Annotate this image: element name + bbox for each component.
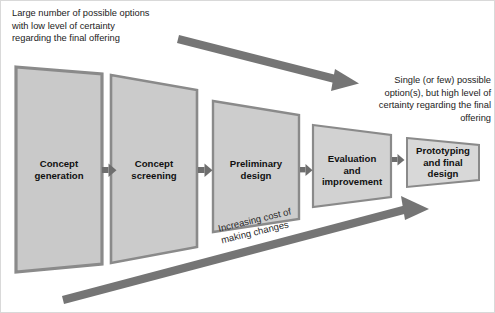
stage-shape-concept-generation [16, 67, 102, 272]
diagram-canvas: Large number of possible options with lo… [0, 0, 495, 313]
flow-arrow-3-to-4 [300, 164, 313, 176]
note-single-option: Single (or few) possible option(s), but … [331, 74, 491, 124]
stage-shape-evaluation-improvement [313, 125, 391, 207]
note-large-options: Large number of possible options with lo… [12, 7, 149, 45]
flow-arrow-2-to-3 [198, 164, 213, 178]
stage-shape-prototyping-final [407, 138, 479, 187]
flow-arrow-4-to-5 [392, 154, 405, 166]
funnel-diagram-graphic [1, 1, 495, 313]
stage-shape-concept-screening [111, 75, 197, 263]
